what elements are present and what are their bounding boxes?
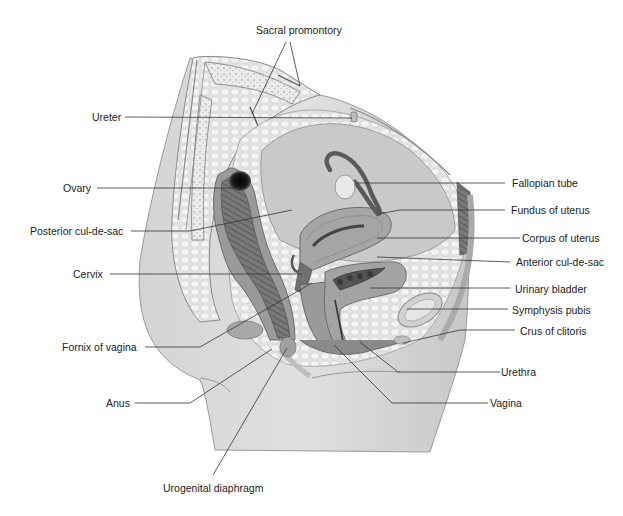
label-fornix-of-vagina: Fornix of vagina	[62, 341, 137, 353]
label-symphysis-pubis: Symphysis pubis	[512, 304, 591, 316]
label-urethra: Urethra	[501, 366, 536, 378]
ureter	[351, 112, 357, 122]
label-posterior-cul-de-sac: Posterior cul-de-sac	[30, 225, 123, 237]
label-urinary-bladder: Urinary bladder	[515, 283, 587, 295]
label-urogenital-diaphragm: Urogenital diaphragm	[163, 482, 263, 494]
label-crus-of-clitoris: Crus of clitoris	[520, 325, 587, 337]
label-ureter: Ureter	[92, 111, 121, 123]
label-anterior-cul-de-sac: Anterior cul-de-sac	[516, 256, 604, 268]
label-ovary: Ovary	[63, 182, 91, 194]
label-anus: Anus	[106, 397, 130, 409]
label-sacral-promontory: Sacral promontory	[256, 24, 342, 36]
label-cervix: Cervix	[73, 268, 103, 280]
label-fallopian-tube: Fallopian tube	[512, 177, 578, 189]
label-corpus-of-uterus: Corpus of uterus	[522, 232, 600, 244]
label-vagina: Vagina	[490, 397, 522, 409]
label-fundus-of-uterus: Fundus of uterus	[511, 204, 590, 216]
